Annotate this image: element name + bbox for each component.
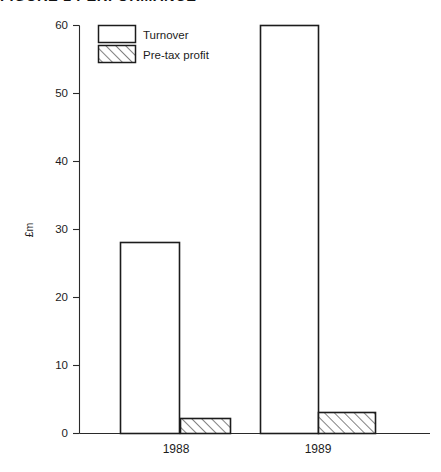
legend-swatch-pretax-profit <box>99 46 136 63</box>
bar-turnover-1988 <box>121 243 180 434</box>
legend-swatch-turnover <box>99 26 136 43</box>
x-tick-label-1988: 1988 <box>163 442 190 456</box>
y-tick-labels: 0 10 20 30 40 50 60 <box>55 19 68 439</box>
chart-legend: Turnover Pre-tax profit <box>99 26 210 63</box>
x-tick-label-1989: 1989 <box>305 442 332 456</box>
y-tick-label-10: 10 <box>55 359 68 371</box>
bar-turnover-1989 <box>261 26 319 434</box>
y-tick-label-60: 60 <box>55 19 68 31</box>
legend-label-pretax-profit: Pre-tax profit <box>143 49 210 61</box>
y-tick-label-30: 30 <box>55 223 68 235</box>
bar-chart-plot: 0 10 20 30 40 50 60 £m 1988 1989 Turnove… <box>0 0 441 472</box>
bar-pretax-profit-1989 <box>319 413 376 434</box>
y-tick-label-50: 50 <box>55 87 68 99</box>
y-tick-label-40: 40 <box>55 155 68 167</box>
x-tick-labels: 1988 1989 <box>163 442 332 456</box>
y-axis-label: £m <box>23 222 35 237</box>
y-tick-label-0: 0 <box>62 427 68 439</box>
y-tick-label-20: 20 <box>55 291 68 303</box>
figure-container: FIGURE 1 PERFORMANCE 0 10 <box>0 0 441 472</box>
bar-pretax-profit-1988 <box>181 419 231 434</box>
legend-label-turnover: Turnover <box>143 29 189 41</box>
